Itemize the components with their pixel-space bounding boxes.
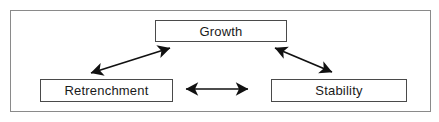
node-retrenchment[interactable]: Retrenchment bbox=[40, 79, 173, 102]
node-retrenchment-label: Retrenchment bbox=[64, 84, 148, 97]
node-growth-label: Growth bbox=[199, 25, 242, 38]
node-growth[interactable]: Growth bbox=[155, 20, 287, 42]
node-stability-label: Stability bbox=[315, 84, 362, 97]
diagram-canvas: Growth Retrenchment Stability bbox=[0, 0, 439, 122]
node-stability[interactable]: Stability bbox=[271, 79, 407, 102]
